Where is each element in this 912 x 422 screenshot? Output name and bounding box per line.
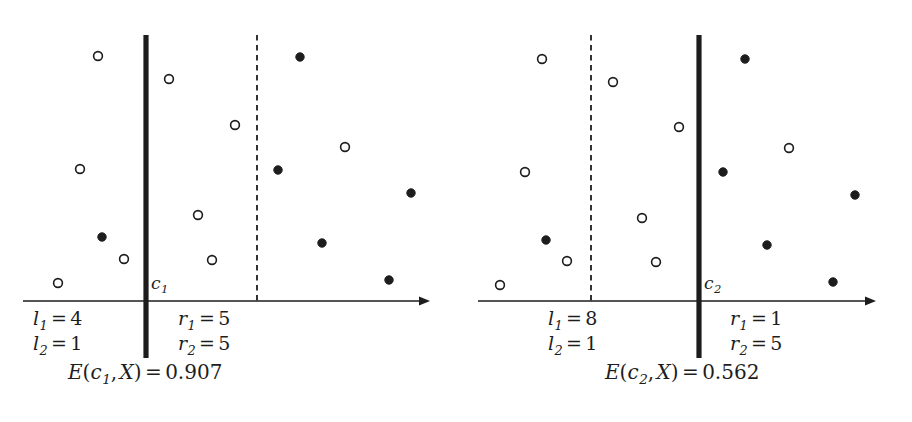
cut-label-c2: c2 xyxy=(704,275,721,296)
data-point-class-1 xyxy=(521,168,530,177)
count-r2-left: r2=5 xyxy=(178,334,230,358)
data-point-class-2 xyxy=(98,233,106,241)
x-axis-arrowhead xyxy=(865,296,876,305)
data-point-class-1 xyxy=(341,143,350,152)
data-point-class-1 xyxy=(675,123,684,132)
data-point-class-2 xyxy=(542,236,550,244)
scatter-plot-left xyxy=(0,0,456,422)
data-point-class-1 xyxy=(76,165,85,174)
data-point-class-1 xyxy=(496,281,505,290)
count-l2-left: l2=1 xyxy=(33,334,82,358)
data-point-class-2 xyxy=(296,53,304,61)
data-point-class-1 xyxy=(231,121,240,130)
data-point-class-2 xyxy=(719,168,727,176)
count-l1-right: l1=8 xyxy=(548,309,597,333)
x-axis-arrowhead xyxy=(419,296,430,305)
count-l2-right: l2=1 xyxy=(548,334,597,358)
data-point-class-1 xyxy=(609,78,618,87)
figure-canvas: c1 l1=4 l2=1 r1=5 r2=5 E(c1,X)=0.907 c2 … xyxy=(0,0,912,422)
data-point-class-1 xyxy=(208,256,217,265)
cut-label-c1: c1 xyxy=(151,275,168,296)
count-r2-right: r2=5 xyxy=(730,334,782,358)
data-point-class-2 xyxy=(741,55,749,63)
data-point-class-2 xyxy=(851,191,859,199)
data-point-class-1 xyxy=(120,255,129,264)
data-point-class-2 xyxy=(274,166,282,174)
panel-left-cut-c1: c1 l1=4 l2=1 r1=5 r2=5 E(c1,X)=0.907 xyxy=(0,0,456,422)
data-point-class-1 xyxy=(94,52,103,61)
data-point-class-2 xyxy=(318,239,326,247)
data-point-class-1 xyxy=(194,211,203,220)
entropy-expression-c1: E(c1,X)=0.907 xyxy=(68,362,222,387)
data-point-class-1 xyxy=(785,144,794,153)
data-point-class-2 xyxy=(407,189,415,197)
data-point-class-2 xyxy=(763,241,771,249)
count-l1-left: l1=4 xyxy=(33,309,82,333)
data-point-class-1 xyxy=(563,257,572,266)
count-r1-left: r1=5 xyxy=(178,309,230,333)
data-point-class-1 xyxy=(538,55,547,64)
data-point-class-1 xyxy=(638,214,647,223)
data-point-class-1 xyxy=(652,258,661,267)
count-r1-right: r1=1 xyxy=(730,309,782,333)
data-point-class-1 xyxy=(54,279,63,288)
data-point-class-2 xyxy=(829,278,837,286)
entropy-expression-c2: E(c2,X)=0.562 xyxy=(605,362,759,387)
data-point-class-2 xyxy=(385,276,393,284)
data-point-class-1 xyxy=(165,75,174,84)
scatter-plot-right xyxy=(456,0,912,422)
panel-right-cut-c2: c2 l1=8 l2=1 r1=1 r2=5 E(c2,X)=0.562 xyxy=(456,0,912,422)
